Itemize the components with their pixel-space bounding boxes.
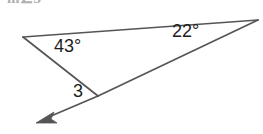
side-top-left-to-right xyxy=(23,20,258,37)
angle-label-unknown: 3 xyxy=(73,82,83,100)
exterior-ray xyxy=(36,96,98,123)
ray-arrowhead-icon xyxy=(36,112,57,123)
triangle-diagram-svg xyxy=(0,0,263,134)
triangle-outline xyxy=(23,20,258,96)
angle-label-left: 43° xyxy=(54,37,81,55)
geometry-figure: m∠3 43° 22° 3 xyxy=(0,0,263,134)
angle-label-right: 22° xyxy=(172,22,199,40)
